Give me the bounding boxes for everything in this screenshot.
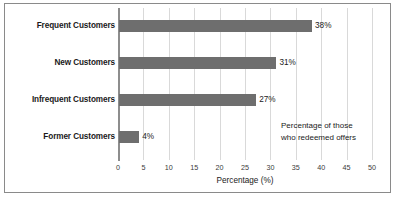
bar-value-former-customers: 4% bbox=[142, 132, 154, 141]
chart-annotation: Percentage of those who redeemed offers bbox=[281, 120, 356, 143]
category-label-frequent-customers: Frequent Customers bbox=[5, 21, 115, 30]
annotation-line-2: who redeemed offers bbox=[281, 132, 356, 144]
category-label-new-customers: New Customers bbox=[5, 58, 115, 67]
bar-value-frequent-customers: 38% bbox=[315, 21, 331, 30]
x-tick-label-50: 50 bbox=[362, 163, 382, 172]
x-tick-label-5: 5 bbox=[133, 163, 153, 172]
x-tick-label-0: 0 bbox=[108, 163, 128, 172]
bar-former-customers bbox=[119, 131, 139, 143]
x-tick-label-25: 25 bbox=[235, 163, 255, 172]
chart-figure: Frequent Customers New Customers Infrequ… bbox=[0, 0, 404, 200]
x-tick-label-35: 35 bbox=[286, 163, 306, 172]
x-tick-label-20: 20 bbox=[210, 163, 230, 172]
x-tick-label-45: 45 bbox=[337, 163, 357, 172]
x-tick-label-40: 40 bbox=[311, 163, 331, 172]
x-tick-label-30: 30 bbox=[260, 163, 280, 172]
gridline-50 bbox=[372, 8, 373, 160]
annotation-line-1: Percentage of those bbox=[281, 120, 356, 132]
bar-new-customers bbox=[119, 57, 276, 69]
bar-value-new-customers: 31% bbox=[279, 58, 295, 67]
category-label-infrequent-customers: Infrequent Customers bbox=[5, 95, 115, 104]
bar-infrequent-customers bbox=[119, 94, 256, 106]
x-axis-title: Percentage (%) bbox=[118, 176, 372, 185]
category-label-former-customers: Former Customers bbox=[5, 132, 115, 141]
bar-frequent-customers bbox=[119, 20, 312, 32]
x-tick-label-15: 15 bbox=[184, 163, 204, 172]
bar-value-infrequent-customers: 27% bbox=[259, 95, 275, 104]
x-tick-label-10: 10 bbox=[159, 163, 179, 172]
